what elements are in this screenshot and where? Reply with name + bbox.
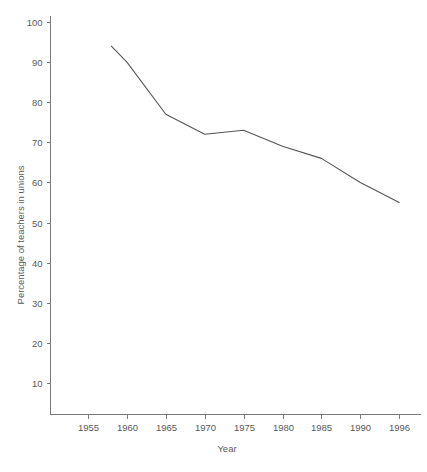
y-tick-label: 90 (32, 57, 43, 68)
y-axis-title: Percentage of teachers in unions (15, 165, 26, 304)
x-tick-label: 1970 (195, 422, 216, 433)
y-tick-label: 80 (32, 97, 43, 108)
chart-background (0, 0, 427, 472)
x-tick-label: 1960 (117, 422, 138, 433)
y-tick-label: 20 (32, 338, 43, 349)
y-tick-label: 70 (32, 137, 43, 148)
x-tick-label: 1985 (311, 422, 332, 433)
x-tick-label-group: 195519601965197019751980198519901996 (78, 422, 410, 433)
y-tick-label: 30 (32, 298, 43, 309)
x-tick-label: 1965 (156, 422, 177, 433)
x-tick-label: 1990 (350, 422, 371, 433)
y-tick-label: 100 (27, 17, 43, 28)
y-tick-label: 50 (32, 218, 43, 229)
x-tick-label: 1980 (273, 422, 294, 433)
line-chart-svg: 102030405060708090100 Percentage of teac… (0, 0, 427, 472)
x-tick-label: 1996 (389, 422, 410, 433)
chart-figure: 102030405060708090100 Percentage of teac… (0, 0, 427, 472)
x-tick-label: 1955 (78, 422, 99, 433)
x-tick-label: 1975 (234, 422, 255, 433)
y-tick-label: 40 (32, 258, 43, 269)
x-axis-title: Year (217, 443, 236, 454)
y-tick-label: 60 (32, 177, 43, 188)
y-tick-label: 10 (32, 378, 43, 389)
